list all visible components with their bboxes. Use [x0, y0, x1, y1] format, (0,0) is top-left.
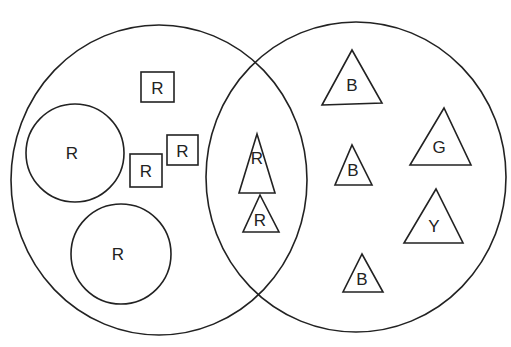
triangle-shape: G: [410, 108, 471, 165]
circle-label: R: [112, 245, 124, 264]
triangle-label: B: [346, 76, 357, 95]
triangle-label: R: [251, 149, 263, 168]
triangle-label: B: [347, 161, 358, 180]
triangle-shape: B: [322, 50, 382, 105]
square-label: R: [151, 79, 163, 98]
square-shape: R: [167, 135, 198, 165]
triangle-label: G: [432, 138, 445, 157]
square-label: R: [176, 142, 188, 161]
triangle-shape: Y: [404, 189, 463, 243]
triangle-shape: B: [335, 145, 372, 185]
square-shape: R: [141, 72, 174, 102]
triangle-shape: R: [243, 195, 279, 232]
triangle-label: R: [254, 211, 266, 230]
square-shape: R: [130, 154, 162, 187]
circle-shape: R: [26, 104, 124, 202]
triangle-shape: R: [239, 134, 275, 193]
triangle-label: B: [356, 270, 367, 289]
triangle-shape: B: [343, 254, 383, 292]
venn-diagram: RR RRR RRBBBGY: [0, 0, 511, 347]
circle-shape: R: [71, 204, 171, 304]
square-label: R: [140, 162, 152, 181]
circle-label: R: [66, 144, 78, 163]
triangle-label: Y: [428, 217, 439, 236]
